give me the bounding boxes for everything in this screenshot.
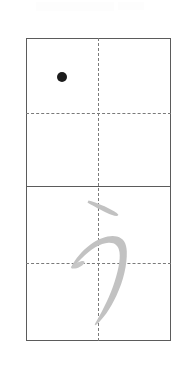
faint-header-mark [36,2,114,11]
guide-line-vertical-center [98,38,99,341]
stroke-start-dot [57,72,67,82]
handwriting-practice-worksheet [0,0,181,374]
faint-header-mark-secondary [118,2,144,10]
